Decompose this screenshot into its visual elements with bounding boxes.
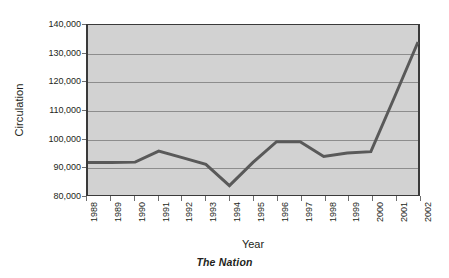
x-axis-tick-mark	[253, 196, 254, 201]
y-axis-title: Circulation	[8, 40, 30, 180]
x-axis-tick-mark	[325, 196, 326, 201]
y-axis-tick-label: 110,000	[49, 106, 81, 115]
x-axis-tick-mark	[420, 196, 421, 201]
x-axis-tick-label: 1996	[281, 202, 290, 222]
series-line-circulation	[88, 25, 418, 195]
y-axis-tick-label: 130,000	[48, 48, 81, 57]
x-axis-tick-mark	[205, 196, 206, 201]
x-axis-tick-label: 1997	[305, 202, 314, 222]
x-axis-tick-label: 1999	[352, 202, 361, 222]
x-axis-tick-label: 1992	[185, 202, 194, 222]
x-axis-tick-mark	[277, 196, 278, 201]
x-axis-tick-mark	[396, 196, 397, 201]
x-axis-tick-label: 1993	[209, 202, 218, 222]
x-axis-tick-labels: 1988198919901991199219931994199519961997…	[86, 202, 420, 240]
x-axis-tick-mark	[158, 196, 159, 201]
x-axis-tick-label: 2001	[400, 202, 409, 222]
x-axis-tick-label: 1995	[257, 202, 266, 222]
chart-figure: Circulation 140,000130,000120,000110,000…	[0, 0, 449, 278]
plot-inner	[88, 25, 418, 195]
y-axis-tick-label: 140,000	[48, 20, 81, 29]
x-axis-tick-label: 1989	[114, 202, 123, 222]
x-axis-tick-label: 1998	[329, 202, 338, 222]
x-axis-tick-label: 1988	[90, 202, 99, 222]
x-axis-tick-mark	[372, 196, 373, 201]
x-axis-tick-label: 1990	[138, 202, 147, 222]
x-axis-tick-mark	[134, 196, 135, 201]
y-axis-tick-label: 120,000	[48, 77, 81, 86]
figure-caption: The Nation	[0, 256, 449, 268]
x-axis-tick-label: 1994	[233, 202, 242, 222]
y-axis-tick-label: 90,000	[53, 163, 81, 172]
x-axis-tick-mark	[86, 196, 87, 201]
x-axis-tick-mark	[110, 196, 111, 201]
x-axis-tick-mark	[301, 196, 302, 201]
y-axis-title-text: Circulation	[13, 83, 25, 136]
x-axis-tick-label: 2000	[376, 202, 385, 222]
x-axis-tick-mark	[181, 196, 182, 201]
x-axis-tick-label: 1991	[162, 202, 171, 222]
x-axis-tick-mark	[348, 196, 349, 201]
y-axis-tick-label: 80,000	[53, 192, 81, 201]
x-axis-tick-mark	[229, 196, 230, 201]
y-axis-tick-labels: 140,000130,000120,000110,000100,00090,00…	[30, 0, 86, 278]
line-path	[88, 42, 418, 186]
plot-area	[86, 24, 420, 196]
y-axis-tick-label: 100,000	[48, 134, 81, 143]
x-axis-title: Year	[86, 238, 420, 250]
x-axis-tick-label: 2002	[424, 202, 433, 222]
